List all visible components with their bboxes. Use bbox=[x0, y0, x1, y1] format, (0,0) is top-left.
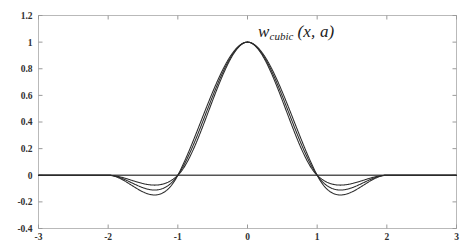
x-tick-label: 1 bbox=[315, 232, 320, 242]
y-tick-label: 1.2 bbox=[21, 11, 33, 21]
title-main-symbol: w bbox=[258, 22, 270, 41]
y-tick-label: -0.4 bbox=[17, 224, 32, 234]
plot-title: wcubic(x, a) bbox=[258, 22, 334, 42]
x-tick-label: -2 bbox=[104, 232, 112, 242]
chart-figure: -0.4-0.200.20.40.60.811.2 -3-2-10123 wcu… bbox=[0, 0, 473, 252]
cubic-kernel-plot: -0.4-0.200.20.40.60.811.2 -3-2-10123 bbox=[0, 0, 473, 252]
y-tick-label: 0.6 bbox=[21, 91, 33, 101]
x-tick-label: 2 bbox=[384, 232, 389, 242]
x-tick-label: 3 bbox=[454, 232, 459, 242]
y-tick-label: -0.2 bbox=[17, 197, 32, 207]
title-subscript: cubic bbox=[270, 30, 294, 42]
y-tick-label: 0 bbox=[28, 171, 33, 181]
y-tick-label: 0.8 bbox=[21, 64, 33, 74]
y-tick-label: 0.2 bbox=[21, 144, 33, 154]
figure-background bbox=[0, 0, 473, 252]
y-tick-label: 1 bbox=[28, 38, 33, 48]
y-tick-label: 0.4 bbox=[21, 117, 33, 127]
x-tick-label: 0 bbox=[245, 232, 250, 242]
title-arguments: (x, a) bbox=[297, 22, 334, 41]
x-tick-label: -1 bbox=[174, 232, 182, 242]
x-tick-label: -3 bbox=[35, 232, 43, 242]
